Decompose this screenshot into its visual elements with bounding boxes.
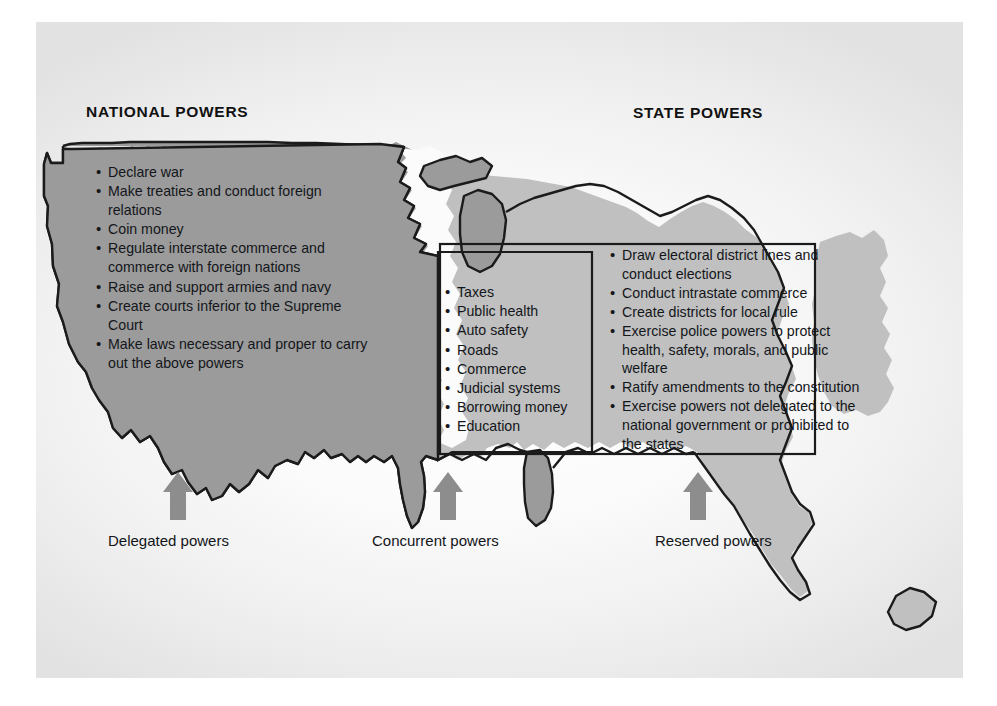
- state-powers-list: Draw electoral district lines and conduc…: [610, 246, 860, 454]
- list-item: Make laws necessary and proper to carry …: [96, 335, 376, 373]
- list-item: Public health: [445, 302, 575, 321]
- list-item: Raise and support armies and navy: [96, 278, 376, 297]
- list-item: Draw electoral district lines and conduc…: [610, 246, 860, 284]
- list-item: Commerce: [445, 360, 575, 379]
- list-item: Exercise powers not delegated to the nat…: [610, 397, 860, 454]
- list-item: Borrowing money: [445, 398, 575, 417]
- list-item: Create courts inferior to the Supreme Co…: [96, 297, 376, 335]
- list-item: Regulate interstate commerce and commerc…: [96, 239, 376, 277]
- national-powers-heading: NATIONAL POWERS: [86, 103, 248, 121]
- caption-delegated-powers: Delegated powers: [108, 532, 229, 549]
- list-item: Coin money: [96, 220, 376, 239]
- list-item: Exercise police powers to protect health…: [610, 322, 860, 379]
- national-powers-list: Declare warMake treaties and conduct for…: [96, 163, 376, 373]
- list-item: Education: [445, 417, 575, 436]
- arrow-reserved: [683, 472, 713, 520]
- state-powers-heading: STATE POWERS: [633, 104, 763, 122]
- list-item: Roads: [445, 341, 575, 360]
- federalism-powers-figure: NATIONAL POWERS STATE POWERS Declare war…: [0, 0, 997, 706]
- arrow-concurrent: [433, 472, 463, 520]
- list-item: Judicial systems: [445, 379, 575, 398]
- list-item: Auto safety: [445, 321, 575, 340]
- caption-reserved-powers: Reserved powers: [655, 532, 772, 549]
- list-item: Ratify amendments to the constitution: [610, 378, 860, 397]
- concurrent-powers-list: TaxesPublic healthAuto safetyRoadsCommer…: [445, 283, 575, 437]
- list-item: Make treaties and conduct foreign relati…: [96, 182, 376, 220]
- list-item: Conduct intrastate commerce: [610, 284, 860, 303]
- list-item: Create districts for local rule: [610, 303, 860, 322]
- list-item: Declare war: [96, 163, 376, 182]
- caption-concurrent-powers: Concurrent powers: [372, 532, 499, 549]
- list-item: Taxes: [445, 283, 575, 302]
